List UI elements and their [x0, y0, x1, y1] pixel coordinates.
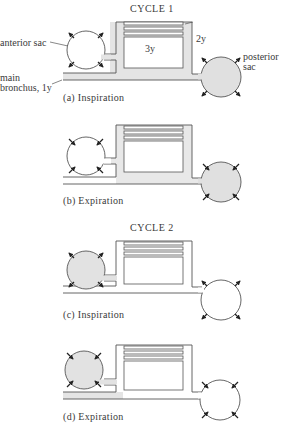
cycle-2-title: CYCLE 2 — [130, 222, 174, 233]
panel-a — [50, 22, 241, 97]
caption-a: (a) Inspiration — [63, 92, 124, 103]
cycle-1-title: CYCLE 1 — [130, 3, 174, 14]
anterior-sac-label: anterior sac — [0, 38, 46, 48]
panel-d — [63, 345, 240, 420]
lung-block-label: 3y — [145, 44, 155, 54]
posterior-sac-label-2: sac — [243, 62, 256, 72]
main-bronchus-label-2: bronchus, 1y — [0, 83, 52, 93]
panel-b — [63, 125, 241, 202]
caption-b: (b) Expiration — [63, 195, 124, 206]
caption-d: (d) Expiration — [63, 411, 124, 422]
caption-c: (c) Inspiration — [63, 309, 124, 320]
parabronchi-label: 2y — [196, 34, 206, 44]
